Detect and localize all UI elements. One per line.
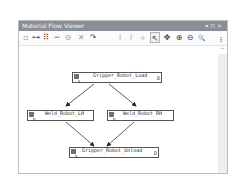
align-vertical-icon[interactable]: ⁞ — [115, 32, 125, 43]
new-node-icon[interactable]: ▫ — [21, 32, 31, 43]
layout-icon[interactable]: ⠿ — [41, 32, 51, 43]
arrow-left-icon[interactable]: ◃ — [137, 32, 147, 43]
unlink-icon[interactable]: ⊖ — [63, 32, 73, 43]
select-pointer-icon[interactable]: ↖ — [150, 32, 160, 43]
overflow-icon[interactable]: ⁝ — [216, 34, 226, 45]
node-label: Gripper_Robot_Unload — [82, 146, 142, 155]
zoom-out-icon[interactable]: ⊖ — [185, 32, 195, 43]
node-label: Weld_Robot_LH — [45, 109, 84, 118]
close-icon[interactable]: × — [217, 22, 224, 29]
node-label: Gripper_Robot_Load — [93, 71, 147, 80]
material-flow-viewer-panel: Material Flow Viewer ▾⊓× ▫ ⊶ ⠿ ━ ⊖ ✕ ↷ ⁞… — [18, 20, 228, 174]
edge-load-to-lh — [66, 84, 94, 106]
edge-lh-to-unload — [66, 122, 94, 146]
delete-icon[interactable]: ✕ — [76, 32, 86, 43]
add-flow-icon[interactable]: ⊶ — [31, 32, 41, 43]
flow-node-gripper-robot-unload[interactable]: S Gripper_Robot_Unload D — [69, 147, 159, 158]
panel-title: Material Flow Viewer — [22, 22, 84, 29]
scroll-up-icon[interactable]: ^ — [218, 46, 227, 54]
link-icon[interactable]: ━ — [52, 32, 62, 43]
toolbar: ▫ ⊶ ⠿ ━ ⊖ ✕ ↷ ⁞ ⁞ ◃ ↖ ✥ ⊕ ⊖ 🔍 ⁝ — [19, 31, 227, 46]
output-port-icon: D — [157, 74, 160, 83]
pan-icon[interactable]: ✥ — [162, 32, 172, 43]
route-icon[interactable]: ↷ — [88, 32, 98, 43]
flow-node-weld-robot-lh[interactable]: D Weld_Robot_LH — [27, 110, 94, 121]
panel-title-bar[interactable]: Material Flow Viewer ▾⊓× — [19, 21, 227, 31]
flow-node-weld-robot-rh[interactable]: D Weld_Robot_RH — [107, 110, 174, 121]
zoom-fit-icon[interactable]: 🔍 — [196, 32, 206, 43]
output-port-icon: D — [154, 149, 157, 158]
flow-node-gripper-robot-load[interactable]: S Gripper_Robot_Load D — [72, 72, 162, 83]
zoom-in-icon[interactable]: ⊕ — [174, 32, 184, 43]
vertical-scrollbar[interactable]: ^ — [218, 46, 227, 173]
node-label: Weld_Robot_RH — [123, 109, 162, 118]
edge-load-to-rh — [109, 84, 136, 106]
flow-canvas[interactable]: S Gripper_Robot_Load D D Weld_Robot_LH D… — [19, 46, 218, 173]
pin-icon[interactable]: ⊓ — [210, 22, 217, 29]
align-horizontal-icon[interactable]: ⁞ — [126, 32, 136, 43]
edge-rh-to-unload — [107, 122, 134, 146]
